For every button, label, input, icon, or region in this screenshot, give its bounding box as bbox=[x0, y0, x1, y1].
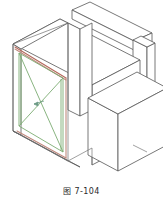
flange-right-post-front bbox=[68, 23, 80, 116]
flange-edge-outer-bottom bbox=[13, 131, 68, 161]
figure-container: 图 7-104 bbox=[0, 0, 163, 200]
flange-left-band bbox=[13, 44, 21, 135]
inner-frame-bottom-salmon bbox=[17, 131, 66, 158]
isometric-technical-drawing bbox=[0, 0, 163, 185]
figure-caption: 图 7-104 bbox=[0, 186, 163, 197]
center-marker-arrowhead bbox=[34, 102, 38, 106]
